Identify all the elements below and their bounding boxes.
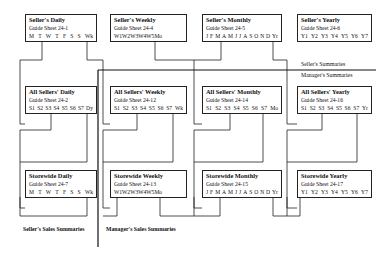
box-sheet: Guide Sheet 24-1: [29, 24, 93, 32]
connector: [20, 113, 87, 162]
guide-box-storewide-yearly: Storewide Yearly Guide Sheet 24-17 Y1Y2Y…: [297, 170, 372, 198]
box-columns: S1S2S3S4S5S6S7Mo: [206, 104, 278, 112]
guide-box-all-sellers-monthly: All Sellers' Monthly Guide Sheet 24-14 S…: [202, 86, 282, 114]
connector: [160, 197, 220, 216]
managers-summaries-label: Manager's Summaries: [301, 72, 352, 78]
box-sheet: Guide Sheet 24-17: [301, 180, 368, 188]
box-sheet: Guide Sheet 24-14: [206, 96, 278, 104]
box-title: Seller's Weekly: [114, 16, 183, 24]
sellers-summaries-label: Seller's Summaries: [301, 61, 345, 67]
guide-box-all-sellers-daily: All Sellers' Daily Guide Sheet 24-2 S1S2…: [25, 86, 97, 114]
box-columns: W1W2W3W4W5Mo: [114, 32, 183, 40]
box-title: Seller's Monthly: [206, 16, 278, 24]
box-sheet: Guide Sheet 24-6: [301, 24, 368, 32]
box-sheet: Guide Sheet 24-15: [206, 180, 278, 188]
guide-box-all-sellers-weekly: All Sellers' Weekly Guide Sheet 24-12 S1…: [110, 86, 187, 114]
sellers-sales-summaries-label: Seller's Sales Summaries: [23, 226, 85, 232]
connector: [103, 113, 173, 162]
box-title: Storewide Monthly: [206, 172, 278, 180]
box-title: Storewide Yearly: [301, 172, 368, 180]
guide-box-storewide-weekly: Storewide Weekly Guide Sheet 24-13 W1W2W…: [110, 170, 187, 198]
connector: [20, 197, 87, 216]
box-columns: S1S2S3S4S5S6S7Yr: [301, 104, 368, 112]
connector: [194, 41, 221, 60]
box-columns: JFMAMJJASONDYr: [206, 32, 278, 40]
box-columns: MTWTFSSWk: [29, 188, 93, 196]
box-columns: Y1Y2Y3Y4Y5Y6Y7: [301, 188, 368, 196]
guide-box-sellers-weekly: Seller's Weekly Guide Sheet 24-4 W1W2W3W…: [110, 14, 187, 42]
box-columns: W1W2W3W4W5Mo: [114, 188, 183, 196]
box-sheet: Guide Sheet 24-4: [114, 24, 183, 32]
connector: [287, 197, 300, 216]
guide-box-storewide-monthly: Storewide Monthly Guide Sheet 24-15 JFMA…: [202, 170, 282, 198]
box-columns: JFMAMJJASONDYr: [206, 188, 278, 196]
box-columns: MTWTFSSWk: [29, 32, 93, 40]
managers-sales-summaries-label: Manager's Sales Summaries: [106, 226, 176, 232]
box-title: Storewide Daily: [29, 172, 93, 180]
box-title: All Sellers' Yearly: [301, 88, 368, 96]
guide-box-sellers-yearly: Seller's Yearly Guide Sheet 24-6 Y1Y2Y3Y…: [297, 14, 372, 42]
box-sheet: Guide Sheet 24-5: [206, 24, 278, 32]
box-sheet: Guide Sheet 24-12: [114, 96, 183, 104]
box-title: Storewide Weekly: [114, 172, 183, 180]
box-columns: S1S2S3S4S5S6S7Dy: [29, 104, 93, 112]
box-sheet: Guide Sheet 24-7: [29, 180, 93, 188]
box-title: Seller's Yearly: [301, 16, 368, 24]
connector: [273, 197, 287, 216]
box-sheet: Guide Sheet 24-16: [301, 96, 368, 104]
guide-box-sellers-daily: Seller's Daily Guide Sheet 24-1 MTWTFSSW…: [25, 14, 97, 42]
box-sheet: Guide Sheet 24-2: [29, 96, 93, 104]
box-sheet: Guide Sheet 24-13: [114, 180, 183, 188]
box-title: Seller's Daily: [29, 16, 93, 24]
guide-box-all-sellers-yearly: All Sellers' Yearly Guide Sheet 24-16 S1…: [297, 86, 372, 114]
box-title: All Sellers' Weekly: [114, 88, 183, 96]
guide-box-sellers-monthly: Seller's Monthly Guide Sheet 24-5 JFMAMJ…: [202, 14, 282, 42]
box-title: All Sellers' Daily: [29, 88, 93, 96]
connector: [194, 113, 263, 162]
guide-box-storewide-daily: Storewide Daily Guide Sheet 24-7 MTWTFSS…: [25, 170, 97, 198]
guide-sheet-flow-diagram: Seller's Summaries Manager's Summaries S…: [0, 0, 388, 263]
box-columns: Y1Y2Y3Y4Y5Y6Y7: [301, 32, 368, 40]
connector: [103, 197, 117, 216]
box-title: All Sellers' Monthly: [206, 88, 278, 96]
box-columns: S1S2S3S4S5S6S7Wk: [114, 104, 183, 112]
